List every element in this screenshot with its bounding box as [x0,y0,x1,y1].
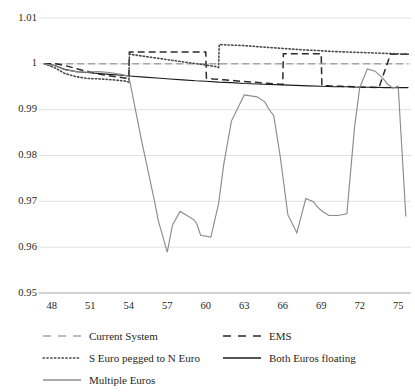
legend-item[interactable]: EMS [222,328,292,344]
x-axis-tick-label: 63 [229,300,259,311]
legend-line-swatch [222,330,262,342]
y-axis-tick-label: 0.98 [3,150,37,161]
y-axis-tick-labels: 1.0110.990.980.970.960.95 [0,0,37,320]
series-line [44,64,406,252]
y-axis-tick-label: 1.01 [3,13,37,24]
line-chart: 1.0110.990.980.970.960.95 48515457606366… [0,0,415,392]
legend-item[interactable]: Current System [42,328,158,344]
x-axis-tick-labels: 48515457606366697275 [0,296,415,316]
data-series-layer [44,45,408,253]
chart-legend: Current SystemEMSS Euro pegged to N Euro… [0,322,415,392]
x-axis-tick-label: 75 [383,300,413,311]
legend-label: Multiple Euros [82,374,155,386]
x-axis-tick-label: 57 [152,300,182,311]
legend-label: S Euro pegged to N Euro [82,352,200,364]
legend-line-swatch [42,330,82,342]
legend-label: EMS [262,330,292,342]
x-axis-tick-label: 66 [268,300,298,311]
legend-label: Current System [82,330,158,342]
legend-item[interactable]: Multiple Euros [42,372,155,388]
x-axis-tick-label: 72 [345,300,375,311]
x-axis-tick-label: 69 [306,300,336,311]
legend-line-swatch [42,374,82,386]
y-axis-tick-label: 0.97 [3,196,37,207]
legend-item[interactable]: Both Euros floating [222,350,356,366]
y-axis-tick-label: 1 [3,58,37,69]
y-axis-tick-label: 0.99 [3,104,37,115]
y-axis-tick-label: 0.96 [3,242,37,253]
chart-plot-area [0,0,415,320]
legend-item[interactable]: S Euro pegged to N Euro [42,350,200,366]
x-axis-tick-label: 51 [75,300,105,311]
x-axis-tick-label: 48 [37,300,67,311]
legend-label: Both Euros floating [262,352,356,364]
x-axis-tick-label: 54 [114,300,144,311]
x-axis-tick-label: 60 [191,300,221,311]
series-line [44,64,408,88]
legend-line-swatch [222,352,262,364]
legend-line-swatch [42,352,82,364]
